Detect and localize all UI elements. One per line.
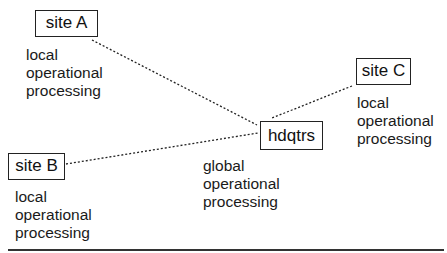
- edge-site-c-hdqtrs: [272, 86, 352, 118]
- site-a-box: site A: [35, 10, 98, 37]
- edge-site-a-hdqtrs: [92, 40, 257, 125]
- bottom-divider: [8, 249, 444, 251]
- site-a-caption-line: local: [26, 46, 103, 64]
- site-b-caption: local operational processing: [15, 188, 92, 242]
- hdqtrs-caption-line: global: [203, 157, 280, 175]
- site-c-box: site C: [356, 58, 411, 85]
- site-c-caption-line: operational: [357, 112, 434, 130]
- site-c-caption-line: processing: [357, 130, 434, 148]
- hdqtrs-caption: global operational processing: [203, 157, 280, 211]
- hdqtrs-caption-line: operational: [203, 175, 280, 193]
- site-a-caption: local operational processing: [26, 46, 103, 100]
- hdqtrs-caption-line: processing: [203, 193, 280, 211]
- site-c-caption-line: local: [357, 94, 434, 112]
- site-a-caption-line: processing: [26, 82, 103, 100]
- site-b-box: site B: [8, 153, 65, 180]
- site-a-caption-line: operational: [26, 64, 103, 82]
- site-c-caption: local operational processing: [357, 94, 434, 148]
- site-b-caption-line: local: [15, 188, 92, 206]
- site-b-caption-line: processing: [15, 224, 92, 242]
- site-b-caption-line: operational: [15, 206, 92, 224]
- hdqtrs-box: hdqtrs: [260, 121, 323, 150]
